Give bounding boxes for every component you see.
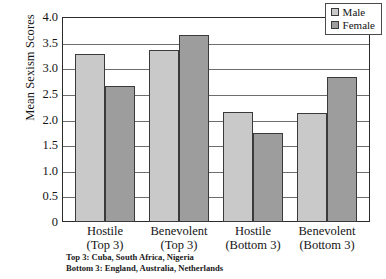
legend-item-female: Female xyxy=(331,19,375,32)
bar-group xyxy=(68,17,142,222)
footnote-line: Bottom 3: England, Australia, Netherland… xyxy=(66,263,223,274)
bar-female xyxy=(327,77,357,222)
bar-group xyxy=(216,17,290,222)
y-tick-label: 2.5 xyxy=(18,88,58,100)
y-tick-label: 3.0 xyxy=(18,62,58,74)
chart-footnotes: Top 3: Cuba, South Africa, NigeriaBottom… xyxy=(66,252,223,273)
legend-item-male: Male xyxy=(331,6,375,19)
y-tick-label: 1.0 xyxy=(18,165,58,177)
bar-male xyxy=(297,113,327,222)
x-category-label: Benevolent(Top 3) xyxy=(142,224,216,252)
x-category-line1: Hostile xyxy=(235,224,271,238)
x-category-line2: (Top 3) xyxy=(68,238,142,252)
x-category-line1: Hostile xyxy=(87,224,123,238)
x-category-line2: (Bottom 3) xyxy=(290,238,364,252)
bar-male xyxy=(75,54,105,222)
x-category-label: Benevolent(Bottom 3) xyxy=(290,224,364,252)
legend-label: Male xyxy=(343,6,366,19)
y-tick-label: 0.5 xyxy=(18,190,58,202)
y-axis-title: Mean Sexism Scores xyxy=(23,0,38,158)
bar-female xyxy=(179,35,209,222)
y-tick-label: 3.5 xyxy=(18,37,58,49)
y-tick-label: 0 xyxy=(18,216,58,228)
x-category-line2: (Top 3) xyxy=(142,238,216,252)
bar-series-container xyxy=(62,17,370,222)
bar-group xyxy=(142,17,216,222)
y-tick-label: 1.5 xyxy=(18,139,58,151)
legend-swatch-male-icon xyxy=(331,8,339,16)
bar-chart-figure: Mean Sexism Scores 4.03.53.02.52.01.51.0… xyxy=(0,0,386,279)
chart-legend: MaleFemale xyxy=(325,3,382,35)
bar-male xyxy=(149,50,179,222)
x-category-line2: (Bottom 3) xyxy=(216,238,290,252)
x-category-line1: Benevolent xyxy=(151,224,208,238)
x-category-label: Hostile(Top 3) xyxy=(68,224,142,252)
bar-female xyxy=(253,133,283,222)
y-tick-label: 4.0 xyxy=(18,11,58,23)
x-axis-category-labels: Hostile(Top 3)Benevolent(Top 3)Hostile(B… xyxy=(62,224,370,252)
y-tick-label: 2.0 xyxy=(18,114,58,126)
bar-female xyxy=(105,86,135,222)
bar-male xyxy=(223,112,253,222)
x-category-line1: Benevolent xyxy=(299,224,356,238)
footnote-line: Top 3: Cuba, South Africa, Nigeria xyxy=(66,252,223,263)
legend-label: Female xyxy=(343,19,375,32)
bar-group xyxy=(290,17,364,222)
legend-swatch-female-icon xyxy=(331,21,339,29)
x-category-label: Hostile(Bottom 3) xyxy=(216,224,290,252)
